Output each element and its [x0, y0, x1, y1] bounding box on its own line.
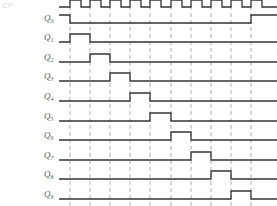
signal-q0: Q0 — [44, 13, 277, 24]
signal-label: Q2 — [44, 52, 54, 63]
clock-edge-guides — [70, 6, 251, 206]
signal-trace — [59, 171, 277, 179]
signal-trace — [59, 93, 277, 101]
signal-label: Q5 — [44, 111, 54, 122]
signal-label: Q4 — [44, 91, 54, 102]
signal-label: Q3 — [44, 71, 54, 82]
signal-label: Q7 — [44, 150, 55, 161]
signal-label: Q9 — [44, 189, 54, 200]
signal-trace — [59, 152, 277, 160]
signal-trace — [59, 15, 277, 23]
signal-q2: Q2 — [44, 52, 277, 63]
signal-q3: Q3 — [44, 71, 277, 82]
signal-waveforms: Q0Q1Q2Q3Q4Q5Q6Q7Q8Q9 — [44, 13, 277, 200]
signal-label: Q1 — [44, 32, 54, 43]
signal-trace — [59, 54, 277, 62]
signal-q7: Q7 — [44, 150, 277, 161]
signal-label: Q6 — [44, 130, 54, 141]
signal-q6: Q6 — [44, 130, 277, 141]
signal-trace — [59, 191, 277, 199]
signal-trace — [59, 34, 277, 42]
signal-label: Q0 — [44, 13, 54, 24]
figure-caption-fragment: CP — [2, 1, 13, 10]
signal-trace — [59, 132, 277, 140]
clock-waveform — [59, 0, 277, 7]
clock-trace — [59, 0, 277, 7]
signal-q8: Q8 — [44, 169, 277, 180]
timing-diagram: CP Q0Q1Q2Q3Q4Q5Q6Q7Q8Q9 — [0, 0, 277, 206]
signal-q9: Q9 — [44, 189, 277, 200]
signal-label: Q8 — [44, 169, 54, 180]
signal-trace — [59, 73, 277, 81]
signal-q4: Q4 — [44, 91, 277, 102]
signal-trace — [59, 113, 277, 121]
signal-q5: Q5 — [44, 111, 277, 122]
signal-q1: Q1 — [44, 32, 277, 43]
